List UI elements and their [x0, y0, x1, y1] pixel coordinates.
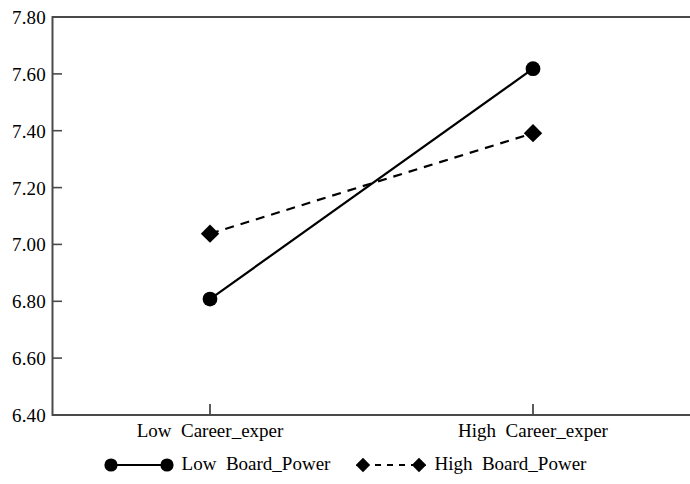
- x-axis-tick-label-low: Low Career_exper: [60, 421, 360, 440]
- legend-item-high-board-power: High Board_Power: [356, 455, 586, 474]
- legend-swatch-dashed-diamond: [356, 456, 426, 474]
- legend: Low Board_Power High Board_Power: [0, 455, 690, 474]
- x-axis-ticks: [210, 404, 533, 414]
- legend-marker-circle: [160, 458, 173, 471]
- y-axis-tick-label: 7.40: [0, 122, 46, 141]
- legend-swatch-solid-circle: [104, 456, 174, 474]
- plot-canvas: [0, 0, 690, 484]
- y-axis-tick-label: 6.60: [0, 349, 46, 368]
- y-axis-ticks: [53, 74, 62, 358]
- axis-frame: [53, 16, 690, 416]
- x-axis-tick-label-high: High Career_exper: [383, 421, 683, 440]
- legend-item-low-board-power: Low Board_Power: [104, 455, 331, 474]
- legend-marker-diamond: [356, 457, 370, 471]
- data-point-marker-diamond: [524, 124, 542, 142]
- legend-marker-circle: [104, 458, 117, 471]
- legend-label-high-board-power: High Board_Power: [434, 454, 586, 473]
- series-low-board-power: [203, 61, 541, 306]
- y-axis-tick-label: 7.60: [0, 65, 46, 84]
- data-point-marker-circle: [526, 61, 541, 76]
- series-line-solid: [210, 69, 533, 299]
- y-axis-tick-label: 7.20: [0, 179, 46, 198]
- interaction-plot-figure: 7.80 7.60 7.40 7.20 7.00 6.80 6.60 6.40 …: [0, 0, 690, 484]
- data-point-marker-circle: [203, 292, 218, 307]
- legend-label-low-board-power: Low Board_Power: [182, 454, 331, 473]
- y-axis-tick-label: 6.40: [0, 406, 46, 425]
- y-axis-tick-label: 7.80: [0, 8, 46, 27]
- y-axis-tick-label: 7.00: [0, 235, 46, 254]
- legend-marker-diamond: [412, 457, 426, 471]
- data-point-marker-diamond: [201, 225, 219, 243]
- y-axis-tick-label: 6.80: [0, 292, 46, 311]
